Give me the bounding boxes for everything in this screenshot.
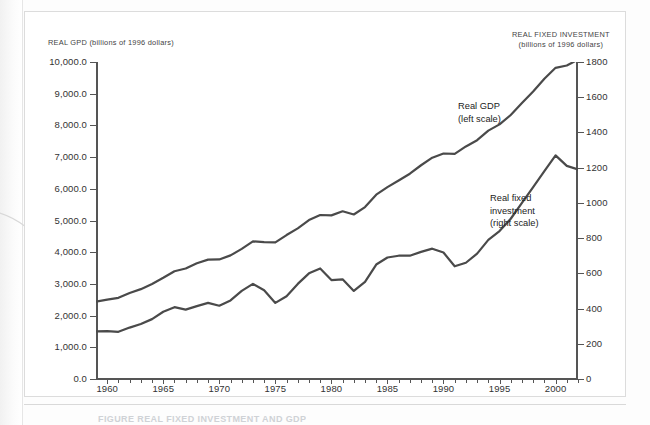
page-edge-shadow	[0, 0, 22, 425]
page-margin-rule	[22, 0, 23, 425]
figure-bottom-rule	[24, 404, 626, 405]
left-axis-tick-label: 6,000.0	[55, 183, 87, 194]
right-axis-tick	[578, 97, 584, 98]
x-axis-tick	[578, 379, 579, 383]
x-axis-tick	[242, 379, 243, 383]
annotation-investment-line3: (right scale)	[490, 217, 539, 230]
x-axis-tick	[253, 379, 254, 383]
right-axis-tick-label: 1200	[586, 162, 608, 173]
left-axis-tick-label: 9,000.0	[55, 88, 87, 99]
x-axis-tick	[287, 379, 288, 383]
left-axis-tick-label: 5,000.0	[55, 215, 87, 226]
left-axis-tick-label: 2,000.0	[55, 310, 87, 321]
left-axis-tick-label: 1,000.0	[55, 341, 87, 352]
annotation-real-gdp-line2: (left scale)	[458, 113, 501, 126]
right-axis-tick-label: 800	[586, 232, 602, 243]
right-axis-tick-label: 400	[586, 303, 602, 314]
annotation-real-gdp-line1: Real GDP	[458, 100, 501, 113]
right-axis-tick-label: 1000	[586, 197, 608, 208]
right-axis-title-line1: REAL FIXED INVESTMENT	[512, 30, 610, 40]
x-axis-tick-label: 1960	[96, 383, 118, 394]
x-axis-tick	[365, 379, 366, 383]
right-axis-tick	[578, 238, 584, 239]
right-axis-tick-label: 1600	[586, 91, 608, 102]
x-axis-tick	[174, 379, 175, 383]
right-axis-tick	[578, 132, 584, 133]
right-axis-tick-label: 0	[586, 373, 591, 384]
x-axis-tick-label: 1990	[433, 383, 455, 394]
left-axis-tick-label: 0.0	[73, 373, 87, 384]
right-axis-tick	[578, 344, 584, 345]
x-axis-tick	[399, 379, 400, 383]
x-axis-tick	[309, 379, 310, 383]
x-axis-tick	[343, 379, 344, 383]
annotation-investment-line2: investment	[490, 205, 539, 218]
left-axis-tick-label: 8,000.0	[55, 119, 87, 130]
x-axis-tick-label: 1995	[489, 383, 511, 394]
x-axis-tick-label: 2000	[545, 383, 567, 394]
x-axis-tick-label: 1980	[321, 383, 343, 394]
right-axis-tick-label: 1800	[586, 56, 608, 67]
x-axis-tick	[511, 379, 512, 383]
figure-caption: FIGURE REAL FIXED INVESTMENT AND GDP	[98, 414, 306, 425]
x-axis-tick-label: 1985	[377, 383, 399, 394]
left-axis-tick-label: 4,000.0	[55, 246, 87, 257]
x-axis-tick	[477, 379, 478, 383]
right-axis-tick	[578, 62, 584, 63]
x-axis-tick	[522, 379, 523, 383]
left-axis-tick-label: 10,000.0	[49, 56, 87, 67]
x-axis-tick	[231, 379, 232, 383]
series-line-real-fixed-investment	[96, 155, 578, 331]
right-axis-tick	[578, 273, 584, 274]
x-axis-tick	[354, 379, 355, 383]
x-axis-tick	[567, 379, 568, 383]
right-axis-title: REAL FIXED INVESTMENT (billions of 1996 …	[512, 30, 610, 50]
right-axis-title-line2: (billions of 1996 dollars)	[512, 40, 610, 50]
x-axis-tick-label: 1970	[209, 383, 231, 394]
annotation-real-gdp: Real GDP (left scale)	[458, 100, 501, 125]
x-axis-tick	[455, 379, 456, 383]
right-axis-tick-label: 600	[586, 267, 602, 278]
right-axis-tick-label: 1400	[586, 126, 608, 137]
left-axis-tick-label: 7,000.0	[55, 151, 87, 162]
right-axis-tick-label: 200	[586, 338, 602, 349]
x-axis-tick	[410, 379, 411, 383]
right-axis-tick	[578, 203, 584, 204]
x-axis-tick	[130, 379, 131, 383]
series-line-real-gdp	[96, 62, 578, 302]
x-axis-tick-label: 1965	[152, 383, 174, 394]
left-axis-tick	[90, 379, 96, 380]
scanned-page-background: REAL GPD (billions of 1996 dollars) REAL…	[0, 0, 650, 425]
x-axis-tick	[118, 379, 119, 383]
right-axis-tick	[578, 309, 584, 310]
x-axis-tick	[533, 379, 534, 383]
left-axis-tick-label: 3,000.0	[55, 278, 87, 289]
annotation-investment-line1: Real fixed	[490, 192, 539, 205]
x-axis-tick	[298, 379, 299, 383]
x-axis-tick	[141, 379, 142, 383]
x-axis-tick	[466, 379, 467, 383]
left-axis-title: REAL GPD (billions of 1996 dollars)	[48, 38, 174, 47]
x-axis-tick	[197, 379, 198, 383]
x-axis-tick	[186, 379, 187, 383]
right-axis-tick	[578, 168, 584, 169]
x-axis-tick-label: 1975	[265, 383, 287, 394]
x-axis-tick	[421, 379, 422, 383]
annotation-real-fixed-investment: Real fixed investment (right scale)	[490, 192, 539, 230]
